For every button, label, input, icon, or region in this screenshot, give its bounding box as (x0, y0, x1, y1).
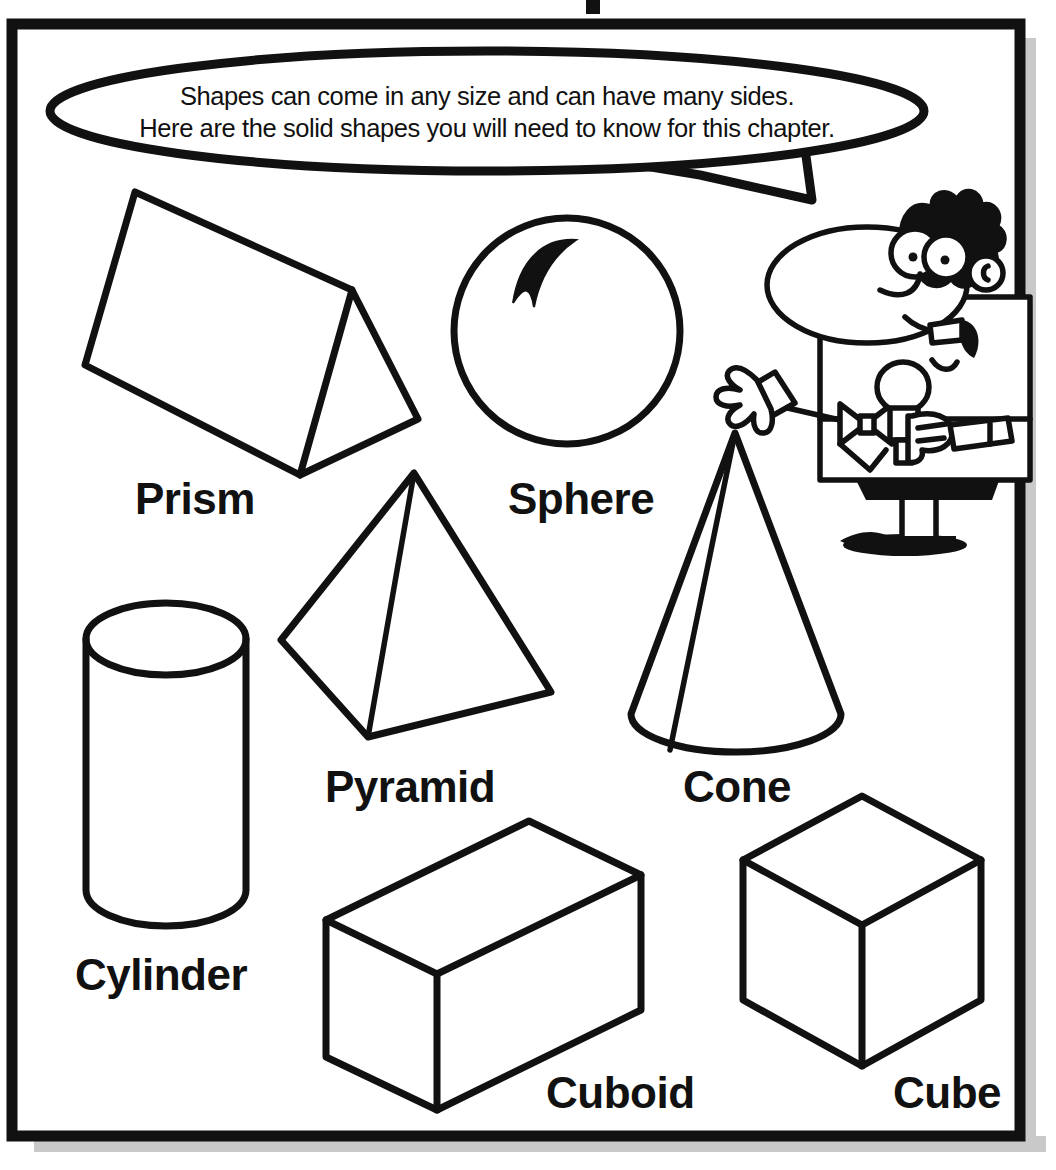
shape-cube (743, 796, 981, 1066)
shape-sphere (454, 218, 680, 444)
teacher-pupil-right (941, 256, 950, 265)
speech-bubble: Shapes can come in any size and can have… (50, 51, 924, 200)
worksheet-page: Shapes can come in any size and can have… (0, 0, 1056, 1170)
shape-label-pyramid: Pyramid (325, 762, 495, 811)
teacher-teeth (930, 320, 962, 343)
cone-icon (631, 433, 841, 752)
cylinder-icon (86, 639, 246, 926)
triangular-prism-icon (85, 192, 352, 475)
cube-top-edges (743, 860, 981, 925)
shape-label-cone: Cone (683, 762, 791, 811)
square-pyramid-front-edge (368, 473, 414, 737)
cylinder-top-ellipse (86, 603, 246, 675)
sphere-highlight-icon (513, 240, 576, 307)
shape-cone (631, 433, 841, 752)
teacher-bowtie-knot (860, 416, 874, 433)
teacher-trousers-top (855, 478, 1000, 500)
speech-bubble-line-1: Shapes can come in any size and can have… (180, 82, 794, 110)
teacher-grip-finger-2 (918, 438, 944, 441)
shape-label-cuboid: Cuboid (546, 1068, 695, 1117)
shape-cuboid (326, 821, 641, 1110)
teacher-forearm (950, 418, 1012, 449)
cuboid-icon (326, 821, 641, 1110)
title-fragment (586, 0, 600, 14)
shape-label-cube: Cube (893, 1068, 1001, 1117)
teacher-pupil-left (909, 253, 918, 262)
shape-cylinder (86, 603, 246, 926)
speech-bubble-body (50, 51, 924, 171)
cuboid-top-edges (326, 875, 641, 974)
speech-bubble-line-2: Here are the solid shapes you will need … (139, 114, 834, 142)
shape-label-prism: Prism (135, 474, 255, 523)
microphone-head (877, 362, 929, 412)
teacher-shoes (890, 536, 956, 546)
shape-prism (85, 192, 418, 475)
worksheet-canvas: Shapes can come in any size and can have… (0, 0, 1056, 1170)
shape-label-cylinder: Cylinder (75, 950, 247, 999)
triangular-prism-end-face (300, 290, 418, 475)
sphere-icon (454, 218, 680, 444)
shape-label-sphere: Sphere (508, 474, 654, 523)
